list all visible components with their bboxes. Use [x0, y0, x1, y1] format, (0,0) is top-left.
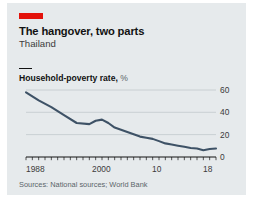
- chart-source: Sources: National sources; World Bank: [19, 180, 147, 189]
- section-rule: [19, 68, 32, 69]
- y-tick-0: 0: [220, 153, 225, 161]
- x-tick-1988: 1988: [26, 164, 45, 174]
- series-axis-title: Household-poverty rate, %: [19, 73, 128, 83]
- y-tick-60: 60: [220, 86, 229, 94]
- poverty-rate-line: [26, 92, 216, 150]
- x-axis-labels: 1988 2000 10 18: [26, 164, 226, 176]
- axis-title-text: Household-poverty rate,: [19, 73, 118, 83]
- x-axis-group: [26, 157, 216, 160]
- plot-area: [26, 89, 216, 157]
- y-tick-40: 40: [220, 108, 229, 116]
- gridlines: [26, 90, 216, 135]
- chart-title: The hangover, two parts: [19, 25, 239, 37]
- chart-subtitle: Thailand: [19, 38, 239, 49]
- chart-svg: [26, 89, 216, 157]
- chart-figure: The hangover, two parts Thailand Househo…: [7, 3, 246, 195]
- axis-title-unit: %: [120, 73, 128, 83]
- x-tick-2018: 18: [203, 164, 212, 174]
- y-axis-labels: 60 40 20 0: [220, 89, 250, 157]
- x-tick-2000: 2000: [92, 164, 111, 174]
- y-tick-20: 20: [220, 131, 229, 139]
- x-tick-2010: 10: [152, 164, 161, 174]
- economist-red-marker: [19, 13, 43, 19]
